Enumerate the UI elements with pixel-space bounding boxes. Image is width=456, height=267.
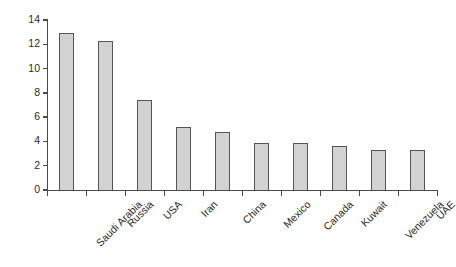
plot-area [47,20,437,190]
x-tick-mark [203,191,204,196]
bar [137,100,153,190]
x-axis-label: Venezuela [402,198,445,241]
bar [59,33,75,190]
y-tick-label: 2 [34,159,40,172]
y-tick-label: 4 [34,134,40,147]
bar [332,146,348,190]
x-tick-mark [359,191,360,196]
x-axis-label: Canada [320,198,354,232]
x-tick-mark [437,191,438,196]
x-tick-mark [281,191,282,196]
x-axis-label: USA [160,198,184,222]
bar [293,143,309,190]
y-tick-label: 14 [28,13,40,26]
x-tick-mark [320,191,321,196]
y-tick-label: 6 [34,110,40,123]
bar [176,127,192,190]
x-tick-mark [86,191,87,196]
x-axis-label: Mexico [280,198,312,230]
x-tick-mark [47,191,48,196]
x-tick-mark [164,191,165,196]
y-tick-label: 8 [34,86,40,99]
y-tick-label: 10 [28,62,40,75]
bar [215,132,231,190]
bar [410,150,426,190]
x-tick-mark [125,191,126,196]
x-tick-mark [398,191,399,196]
bar-chart-figure: % of world total 02468101214 Saudi Arabi… [0,0,456,267]
y-tick-label: 12 [28,37,40,50]
x-axis-label: Iran [198,198,219,219]
bar [254,143,270,190]
y-tick-label: 0 [34,183,40,196]
x-tick-mark [242,191,243,196]
bar [371,150,387,190]
x-axis-label: China [240,198,268,226]
x-axis-label: Kuwait [358,198,389,229]
bar [98,41,114,190]
